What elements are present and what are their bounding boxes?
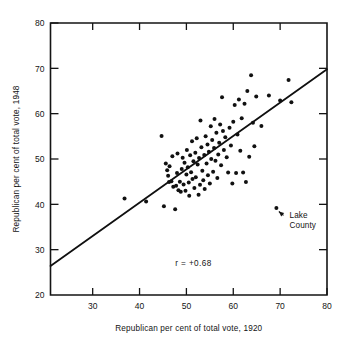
- y-axis-tick-labels: 20304050607080: [35, 18, 45, 300]
- data-point: [190, 139, 194, 143]
- data-point: [188, 153, 192, 157]
- y-tick-label: 70: [35, 64, 45, 74]
- data-point: [229, 143, 233, 147]
- data-point: [144, 200, 148, 204]
- data-point: [289, 100, 293, 104]
- y-tick-label: 30: [35, 245, 45, 255]
- data-point: [199, 145, 203, 149]
- data-point: [228, 126, 232, 130]
- data-point: [214, 131, 218, 135]
- data-point: [209, 124, 213, 128]
- data-point: [213, 159, 217, 163]
- scatter-plot-svg: 304050607080 20304050607080 r = +0.68 La…: [0, 0, 349, 343]
- data-point: [201, 178, 205, 182]
- data-point: [173, 207, 177, 211]
- lake-county-annotation: Lake County: [279, 211, 317, 231]
- data-point: [221, 129, 225, 133]
- data-point: [182, 182, 186, 186]
- data-point: [198, 183, 202, 187]
- data-point: [195, 136, 199, 140]
- lake-county-label-line1: Lake: [290, 211, 309, 220]
- data-point: [287, 78, 291, 82]
- data-point: [213, 117, 217, 121]
- data-point: [247, 155, 251, 159]
- data-point: [209, 157, 213, 161]
- data-point: [234, 171, 238, 175]
- data-point: [215, 176, 219, 180]
- data-point: [200, 169, 204, 173]
- data-point: [237, 98, 241, 102]
- y-tick-label: 20: [35, 290, 45, 300]
- data-point: [249, 73, 253, 77]
- data-point: [198, 118, 202, 122]
- data-point: [274, 206, 278, 210]
- chart-figure: 304050607080 20304050607080 r = +0.68 La…: [0, 0, 349, 343]
- data-point: [206, 142, 210, 146]
- x-tick-label: 50: [182, 301, 192, 311]
- plot-frame: [51, 23, 328, 295]
- x-tick-label: 30: [88, 301, 98, 311]
- x-tick-label: 60: [229, 301, 239, 311]
- x-tick-label: 80: [322, 301, 332, 311]
- data-point: [164, 162, 168, 166]
- axis-frame-lines: [51, 23, 328, 295]
- data-point: [187, 194, 191, 198]
- data-point: [185, 148, 189, 152]
- data-point: [225, 155, 229, 159]
- data-point: [179, 190, 183, 194]
- data-point: [219, 163, 223, 167]
- data-point: [205, 162, 209, 166]
- data-point: [226, 171, 230, 175]
- data-point: [187, 181, 191, 185]
- data-point: [245, 89, 249, 93]
- data-point: [243, 102, 247, 106]
- data-point: [244, 180, 248, 184]
- y-axis-ticks: [51, 23, 328, 250]
- y-tick-label: 80: [35, 18, 45, 28]
- x-axis-tick-labels: 304050607080: [88, 301, 332, 311]
- data-point: [170, 154, 174, 158]
- data-point: [204, 134, 208, 138]
- data-point: [267, 94, 271, 98]
- data-point: [259, 124, 263, 128]
- data-point: [178, 180, 182, 184]
- x-tick-label: 40: [135, 301, 145, 311]
- data-point: [254, 94, 258, 98]
- data-point: [220, 95, 224, 99]
- data-point: [208, 181, 212, 185]
- y-axis-title: Republican per cent of total vote, 1948: [12, 85, 21, 232]
- y-tick-label: 50: [35, 154, 45, 164]
- data-point: [216, 152, 220, 156]
- data-point: [183, 161, 187, 165]
- data-point: [189, 170, 193, 174]
- data-point: [211, 170, 215, 174]
- annotation-arrow-head: [279, 211, 284, 216]
- data-point: [203, 187, 207, 191]
- data-point: [210, 138, 214, 142]
- data-point: [252, 144, 256, 148]
- data-point: [168, 164, 172, 168]
- y-tick-label: 60: [35, 109, 45, 119]
- x-axis-title: Republican per cent of total vote, 1920: [115, 324, 262, 333]
- data-point: [194, 175, 198, 179]
- data-point: [166, 174, 170, 178]
- data-point: [240, 116, 244, 120]
- data-points-layer: [123, 73, 294, 211]
- data-point: [222, 148, 226, 152]
- data-point: [218, 123, 222, 127]
- x-tick-label: 70: [275, 301, 285, 311]
- data-point: [231, 120, 235, 124]
- data-point: [184, 172, 188, 176]
- data-point: [192, 186, 196, 190]
- data-point: [160, 134, 164, 138]
- data-point: [176, 152, 180, 156]
- data-point: [241, 171, 245, 175]
- data-point: [174, 184, 178, 188]
- data-point: [162, 204, 166, 208]
- regression-line: [51, 69, 328, 266]
- lake-county-label-line2: County: [290, 221, 317, 230]
- data-point: [183, 189, 187, 193]
- data-point: [223, 135, 227, 139]
- data-point: [230, 181, 234, 185]
- data-point: [197, 193, 201, 197]
